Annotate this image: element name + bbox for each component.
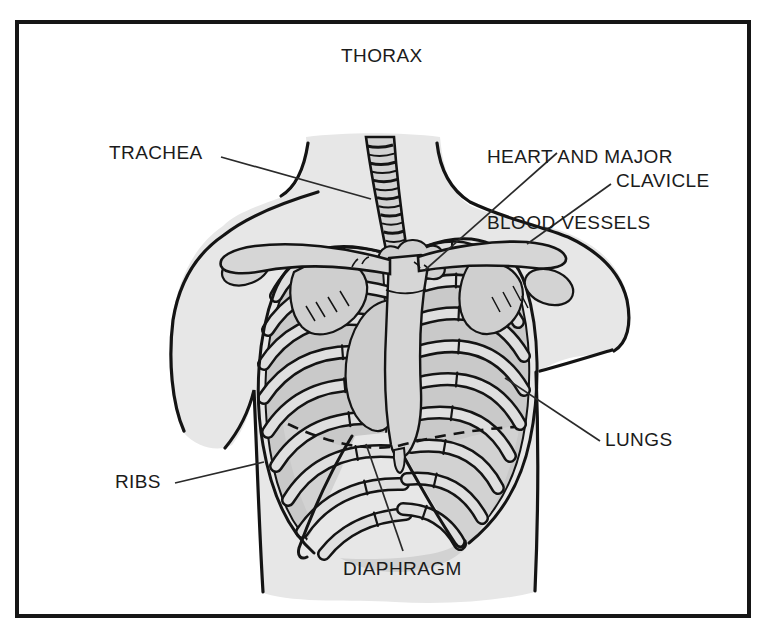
- label-diaphragm: DIAPHRAGM: [343, 558, 462, 580]
- label-clavicle: CLAVICLE: [616, 170, 710, 192]
- rib-joint-tick: [458, 307, 459, 321]
- label-heart-line1: HEART AND MAJOR: [487, 146, 673, 168]
- leader-ribs: [175, 462, 264, 483]
- rib-joint-tick: [456, 373, 457, 387]
- label-trachea: TRACHEA: [109, 142, 203, 164]
- thorax-illustration: [0, 0, 764, 633]
- label-ribs: RIBS: [115, 471, 161, 493]
- rib-joint-tick: [342, 345, 343, 359]
- rib-joint-tick: [458, 340, 459, 354]
- label-heart-line2: BLOOD VESSELS: [487, 212, 673, 234]
- diagram-title: THORAX: [341, 45, 423, 67]
- anatomy-diagram: THORAX TRACHEA HEART AND MAJOR BLOOD VES…: [0, 0, 764, 633]
- label-lungs: LUNGS: [605, 429, 672, 451]
